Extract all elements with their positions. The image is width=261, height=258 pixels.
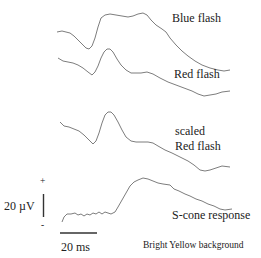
- time-scale-bar: 20 ms: [60, 233, 97, 254]
- minus-sign: -: [41, 220, 44, 230]
- trace-labels: Blue flash Red flash scaled Red flash S-…: [172, 11, 250, 222]
- label-red-flash: Red flash: [174, 67, 220, 81]
- label-s-cone-response: S-cone response: [172, 208, 250, 222]
- erg-figure: Blue flash Red flash scaled Red flash S-…: [0, 0, 261, 258]
- label-scaled: scaled: [175, 124, 205, 138]
- background-condition-label: Bright Yellow background: [143, 240, 244, 250]
- voltage-scale-label: 20 µV: [4, 199, 35, 213]
- voltage-scale-bar: + - 20 µV: [4, 176, 45, 230]
- plus-sign: +: [40, 176, 45, 186]
- label-scaled-red-flash: Red flash: [175, 139, 221, 153]
- time-scale-label: 20 ms: [61, 240, 90, 254]
- traces: [57, 13, 232, 222]
- label-blue-flash: Blue flash: [172, 11, 221, 25]
